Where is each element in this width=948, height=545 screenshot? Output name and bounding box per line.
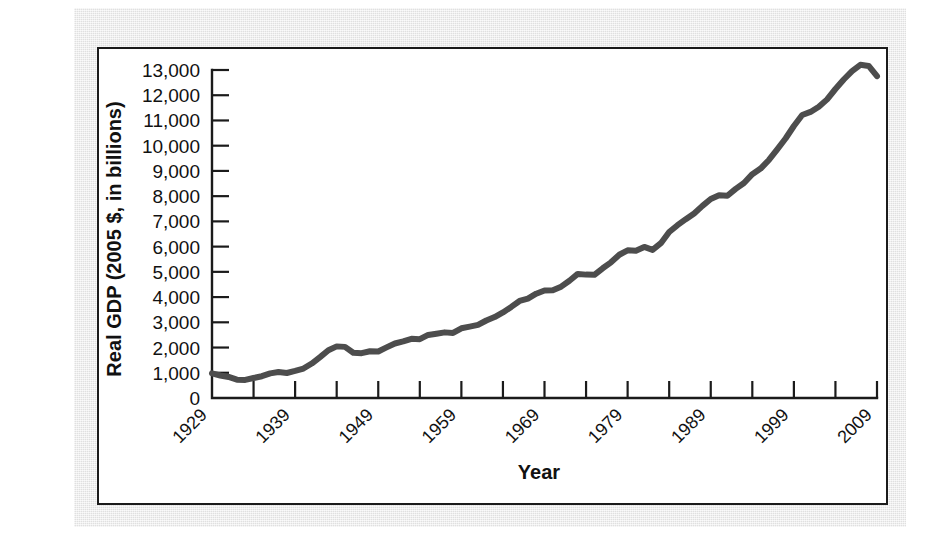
figure-root: Real GDP (2005 $, in billions) Year 13,0… bbox=[0, 0, 948, 545]
y-tick-label: 13,000 bbox=[142, 60, 200, 81]
x-tick-label: 1939 bbox=[251, 405, 293, 447]
chart-panel: Real GDP (2005 $, in billions) Year 13,0… bbox=[97, 47, 888, 505]
x-tick-label: 1929 bbox=[168, 405, 210, 447]
x-tick-label: 1949 bbox=[335, 405, 377, 447]
y-tick-label: 4,000 bbox=[152, 287, 200, 308]
x-tick-label: 1989 bbox=[667, 405, 709, 447]
x-tick-label: 1979 bbox=[584, 405, 626, 447]
y-tick-label: 9,000 bbox=[152, 161, 200, 182]
y-axis-title: Real GDP (2005 $, in billions) bbox=[103, 101, 125, 376]
y-tick-label: 1,000 bbox=[152, 363, 200, 384]
y-tick-label: 10,000 bbox=[142, 136, 200, 157]
page-margin-top bbox=[0, 0, 948, 8]
page-margin-right bbox=[906, 0, 948, 545]
y-tick-label: 8,000 bbox=[152, 186, 200, 207]
gdp-line-chart: Real GDP (2005 $, in billions) Year 13,0… bbox=[99, 49, 886, 503]
data-series-line bbox=[212, 65, 877, 380]
y-tick-label: 2,000 bbox=[152, 338, 200, 359]
y-tick-labels: 13,00012,00011,00010,0009,0008,0007,0006… bbox=[142, 60, 200, 409]
axis-frame bbox=[212, 70, 877, 398]
x-tick-labels: 192919391949195919691979198919992009 bbox=[168, 405, 875, 447]
x-tick-label: 1969 bbox=[501, 405, 543, 447]
y-tick-label: 3,000 bbox=[152, 312, 200, 333]
y-tick-label: 7,000 bbox=[152, 211, 200, 232]
y-tick-label: 11,000 bbox=[143, 110, 200, 131]
y-tick-marks bbox=[212, 70, 229, 373]
x-tick-marks bbox=[254, 381, 877, 398]
page-margin-bottom bbox=[0, 527, 948, 545]
y-tick-label: 12,000 bbox=[142, 85, 200, 106]
x-axis-title: Year bbox=[518, 461, 560, 483]
y-tick-label: 5,000 bbox=[152, 262, 200, 283]
x-tick-label: 1999 bbox=[750, 405, 792, 447]
x-tick-label: 2009 bbox=[833, 405, 875, 447]
x-tick-label: 1959 bbox=[418, 405, 460, 447]
y-tick-label: 6,000 bbox=[152, 237, 200, 258]
page-margin-left bbox=[0, 0, 74, 545]
